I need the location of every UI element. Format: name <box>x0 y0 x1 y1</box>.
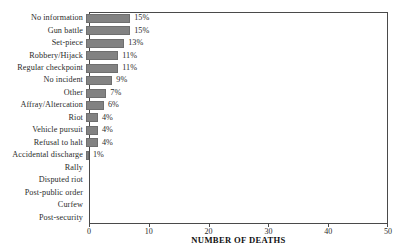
bar-value-label: 1% <box>93 151 104 159</box>
bar-rows-container: No information15%Gun battle15%Set-piece1… <box>0 12 395 224</box>
category-label: Gun battle <box>0 27 86 35</box>
bar-value-label: 7% <box>110 89 121 97</box>
category-label: Regular checkpoint <box>0 64 86 72</box>
bar-track: 13% <box>86 37 395 49</box>
bar-row: Post-public order <box>0 187 395 199</box>
bar <box>86 151 89 160</box>
category-label: Accidental discharge <box>0 151 86 159</box>
bar-row: Robbery/Hijack11% <box>0 49 395 61</box>
category-label: Vehicle pursuit <box>0 126 86 134</box>
bar-track: 15% <box>86 24 395 36</box>
category-label: Robbery/Hijack <box>0 52 86 60</box>
bar-track <box>86 162 395 174</box>
bar-track <box>86 174 395 186</box>
bar <box>86 76 112 85</box>
bar-value-label: 4% <box>102 126 113 134</box>
bar <box>86 126 98 135</box>
bar <box>86 101 104 110</box>
bar-track <box>86 187 395 199</box>
bar <box>86 26 130 35</box>
bar-track: 11% <box>86 49 395 61</box>
bar-row: Refusal to halt4% <box>0 137 395 149</box>
bar-value-label: 15% <box>134 14 149 22</box>
bar-row: Affray/Altercation6% <box>0 99 395 111</box>
bar-value-label: 4% <box>102 114 113 122</box>
bar-row: Accidental discharge1% <box>0 149 395 161</box>
bar-track: 9% <box>86 74 395 86</box>
category-label: Refusal to halt <box>0 139 86 147</box>
bar-row: Rally <box>0 162 395 174</box>
bar <box>86 113 98 122</box>
bar-track: 7% <box>86 87 395 99</box>
bar <box>86 39 124 48</box>
bar-row: Post-security <box>0 212 395 224</box>
category-label: Post-public order <box>0 189 86 197</box>
category-label: Disputed riot <box>0 176 86 184</box>
bar-track: 6% <box>86 99 395 111</box>
bar-row: No information15% <box>0 12 395 24</box>
category-label: Curfew <box>0 201 86 209</box>
category-label: Affray/Altercation <box>0 101 86 109</box>
category-label: Set-piece <box>0 39 86 47</box>
bar-track <box>86 199 395 211</box>
category-label: No information <box>0 14 86 22</box>
x-axis-title: NUMBER OF DEATHS <box>89 235 388 245</box>
category-label: No incident <box>0 76 86 84</box>
bar-row: Gun battle15% <box>0 24 395 36</box>
bar-value-label: 6% <box>108 101 119 109</box>
bar <box>86 14 130 23</box>
category-label: Post-security <box>0 214 86 222</box>
bar-value-label: 11% <box>122 64 137 72</box>
bar-value-label: 11% <box>122 52 137 60</box>
bar-row: Disputed riot <box>0 174 395 186</box>
bar-row: No incident9% <box>0 74 395 86</box>
bar-row: Set-piece13% <box>0 37 395 49</box>
bar-track: 4% <box>86 137 395 149</box>
category-label: Other <box>0 89 86 97</box>
category-label: Rally <box>0 164 86 172</box>
bar <box>86 51 118 60</box>
bar-track: 15% <box>86 12 395 24</box>
bar-value-label: 4% <box>102 139 113 147</box>
bar-value-label: 9% <box>116 76 127 84</box>
bar-row: Curfew <box>0 199 395 211</box>
category-label: Riot <box>0 114 86 122</box>
bar-value-label: 15% <box>134 27 149 35</box>
bar-chart: No information15%Gun battle15%Set-piece1… <box>0 0 395 247</box>
bar <box>86 138 98 147</box>
bar-row: Vehicle pursuit4% <box>0 124 395 136</box>
bar-value-label: 13% <box>128 39 143 47</box>
bar-track: 4% <box>86 124 395 136</box>
bar-track: 1% <box>86 149 395 161</box>
bar-row: Regular checkpoint11% <box>0 62 395 74</box>
bar-track: 11% <box>86 62 395 74</box>
bar-row: Riot4% <box>0 112 395 124</box>
bar-track: 4% <box>86 112 395 124</box>
bar <box>86 89 106 98</box>
bar-track <box>86 212 395 224</box>
bar <box>86 64 118 73</box>
bar-row: Other7% <box>0 87 395 99</box>
